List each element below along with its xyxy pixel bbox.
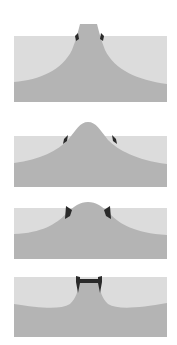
diagram-canvas [0, 0, 177, 345]
panel-3 [14, 202, 167, 259]
panel-4 [14, 276, 167, 337]
